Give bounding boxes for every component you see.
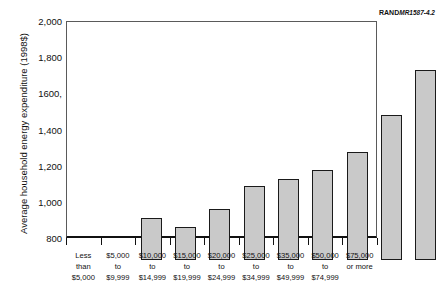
x-tick-mark <box>135 238 136 245</box>
x-tick-mark <box>273 238 274 245</box>
bar-slot <box>168 44 202 260</box>
x-axis-label-line: $50,000 <box>308 250 342 261</box>
y-tick-label: 1600, <box>16 88 62 99</box>
energy-expenditure-bar-chart: RANDMR1587-4.2 Average household energy … <box>0 0 443 300</box>
x-axis-label: $5,000to$9,999 <box>101 250 135 296</box>
x-axis-label-line: than <box>66 261 100 272</box>
x-tick-mark <box>342 238 343 245</box>
x-axis-label: $50,000to$74,999 <box>308 250 342 296</box>
y-tick-label: 1,000 <box>16 196 62 207</box>
x-axis-label-line: to <box>239 261 273 272</box>
x-tick-mark <box>101 238 102 245</box>
x-tick-mark <box>66 238 67 245</box>
x-axis-label-line: $10,000 <box>135 250 169 261</box>
x-axis-label: Lessthan$5,000 <box>66 250 100 296</box>
x-axis-label: $75,000or more <box>343 250 377 296</box>
x-axis-label: $15,000to$19,999 <box>170 250 204 296</box>
x-axis-label: $20,000to$24,999 <box>204 250 238 296</box>
bar-slot <box>203 44 237 260</box>
x-axis-label-line: $49,999 <box>273 272 307 283</box>
bar[interactable] <box>381 115 402 260</box>
bar[interactable] <box>312 170 333 260</box>
x-axis-label: $35,000to$49,999 <box>273 250 307 296</box>
x-tick-mark <box>170 238 171 245</box>
y-tick-label: 1,400 <box>16 124 62 135</box>
x-axis-labels: Lessthan$5,000$5,000to$9,999$10,000to$14… <box>66 250 377 296</box>
x-axis-label-line: or more <box>343 261 377 272</box>
x-axis-label-line: $14,999 <box>135 272 169 283</box>
x-axis-label-line: $20,000 <box>204 250 238 261</box>
x-axis-label-line: to <box>273 261 307 272</box>
x-axis-label-line: $19,999 <box>170 272 204 283</box>
bar[interactable] <box>415 70 436 260</box>
bars-layer <box>134 44 443 260</box>
x-tick-mark <box>308 238 309 245</box>
plot-area <box>66 21 377 238</box>
x-axis-label-line: to <box>101 261 135 272</box>
x-axis-label-line: $74,999 <box>308 272 342 283</box>
x-axis-label: $10,000to$14,999 <box>135 250 169 296</box>
x-axis-label-line: $25,000 <box>239 250 273 261</box>
bar-slot <box>237 44 271 260</box>
x-axis-label-line: to <box>170 261 204 272</box>
y-tick-label: 1,200 <box>16 160 62 171</box>
x-axis-label: $25,000to$34,999 <box>239 250 273 296</box>
bar-slot <box>409 44 443 260</box>
source-credit-docnum: MR1587-4.2 <box>399 9 435 16</box>
bar-slot <box>271 44 305 260</box>
y-tick-label: 1,800 <box>16 52 62 63</box>
x-tick-mark <box>239 238 240 245</box>
bar-slot <box>374 44 408 260</box>
x-axis-label-line: Less <box>66 250 100 261</box>
x-axis-label-line: to <box>308 261 342 272</box>
bar-slot <box>306 44 340 260</box>
x-axis-label-line: to <box>135 261 169 272</box>
x-axis-label-line: $35,000 <box>273 250 307 261</box>
x-axis-label-line: $5,000 <box>66 272 100 283</box>
bar-slot <box>134 44 168 260</box>
x-axis-label-line: $5,000 <box>101 250 135 261</box>
bar[interactable] <box>244 186 265 260</box>
x-axis-label-line: $9,999 <box>101 272 135 283</box>
source-credit: RANDMR1587-4.2 <box>379 9 435 16</box>
x-axis-label-line: to <box>204 261 238 272</box>
x-axis-label-line: $15,000 <box>170 250 204 261</box>
bar-slot <box>340 44 374 260</box>
bar[interactable] <box>278 179 299 260</box>
x-axis-ticks <box>66 238 377 245</box>
x-axis-label-line: $34,999 <box>239 272 273 283</box>
x-tick-mark <box>204 238 205 245</box>
source-credit-org: RAND <box>379 9 399 16</box>
x-axis-label-line: $24,999 <box>204 272 238 283</box>
x-tick-mark <box>377 238 378 245</box>
y-tick-label: 2,000 <box>16 16 62 27</box>
x-axis-label-line: $75,000 <box>343 250 377 261</box>
y-tick-label: 800 <box>16 233 62 244</box>
